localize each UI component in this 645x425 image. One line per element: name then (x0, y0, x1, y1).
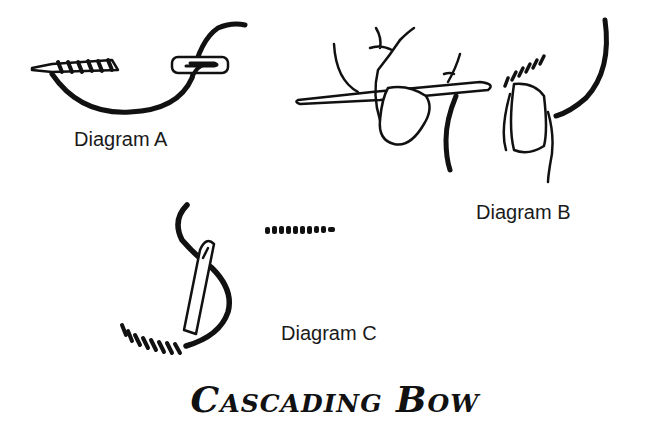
left-hand-hair-1 (370, 28, 414, 50)
diagram-a-label: Diagram A (74, 128, 167, 151)
diagram-b-label: Diagram B (476, 201, 570, 224)
finished-stitch-row (265, 226, 335, 234)
stitches-b (505, 56, 544, 86)
twisted-stitches-c (122, 325, 180, 353)
diagram-c-label: Diagram C (281, 322, 377, 345)
thread-b-right-arc (556, 20, 606, 116)
cascading-bow-diagram: Diagram A Diagram B Diagram C Cascading … (0, 0, 645, 425)
left-thumb (380, 87, 430, 145)
needle-a-left (32, 60, 118, 72)
diagram-a-illustration (32, 24, 245, 112)
left-finger-outline (334, 44, 358, 92)
thread-b-vertical (446, 96, 456, 170)
diagram-b-illustration (296, 20, 606, 182)
needle-c (184, 241, 214, 334)
page-title: Cascading Bow (145, 378, 525, 420)
thread-b-hook (444, 54, 460, 82)
right-thumb (511, 84, 546, 153)
